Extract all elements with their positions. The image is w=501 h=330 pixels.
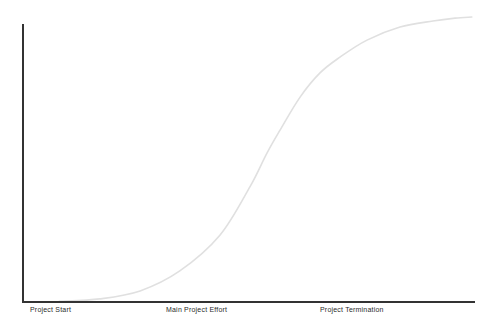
chart-canvas — [0, 0, 501, 330]
effort-curve — [59, 17, 472, 301]
x-tick-label-main-project-effort: Main Project Effort — [166, 306, 227, 314]
x-tick-label-project-start: Project Start — [30, 306, 71, 314]
scurve-chart: Project Start Main Project Effort Projec… — [0, 0, 501, 330]
x-tick-label-project-termination: Project Termination — [320, 306, 384, 314]
